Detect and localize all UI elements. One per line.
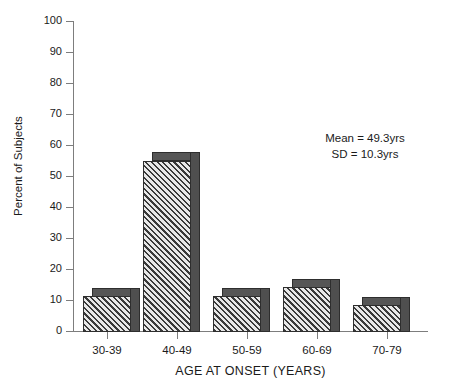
bar-70-79 xyxy=(353,297,401,332)
histogram-chart: 100 90 80 70 60 50 40 30 20 10 0 Percent xyxy=(0,0,455,389)
bar-side-face xyxy=(330,279,340,332)
bar-front-face xyxy=(213,296,261,332)
x-tick-mark xyxy=(247,332,248,339)
y-tick-label: 0 xyxy=(32,325,62,336)
x-tick-mark xyxy=(387,332,388,339)
x-tick-label-60-69: 60-69 xyxy=(302,344,331,357)
bar-front-face xyxy=(143,161,191,332)
y-tick-label: 60 xyxy=(32,139,62,150)
y-tick-mark xyxy=(66,269,73,270)
y-tick-mark xyxy=(66,52,73,53)
x-tick-label-70-79: 70-79 xyxy=(372,344,401,357)
y-tick-mark xyxy=(66,207,73,208)
bar-60-69 xyxy=(283,279,331,332)
y-tick-label: 50 xyxy=(32,170,62,181)
y-axis-line xyxy=(73,21,74,332)
bar-side-face xyxy=(130,288,140,332)
bar-side-face xyxy=(400,297,410,332)
bar-front-face xyxy=(83,296,131,332)
x-tick-mark xyxy=(177,332,178,339)
y-tick-label: 100 xyxy=(32,15,62,26)
y-tick-label: 40 xyxy=(32,201,62,212)
stats-annotation: Mean = 49.3yrs SD = 10.3yrs xyxy=(300,130,430,162)
y-tick-label: 90 xyxy=(32,46,62,57)
x-tick-label-50-59: 50-59 xyxy=(232,344,261,357)
mean-annotation-line: Mean = 49.3yrs xyxy=(300,130,430,146)
y-tick-label: 30 xyxy=(32,232,62,243)
y-tick-mark xyxy=(66,145,73,146)
y-tick-label: 70 xyxy=(32,108,62,119)
y-tick-mark xyxy=(66,21,73,22)
y-tick-mark xyxy=(66,331,73,332)
y-tick-mark xyxy=(66,300,73,301)
y-tick-label: 80 xyxy=(32,77,62,88)
y-tick-mark xyxy=(66,238,73,239)
bar-side-face xyxy=(190,152,200,332)
bar-50-59 xyxy=(213,288,261,332)
sd-annotation-line: SD = 10.3yrs xyxy=(300,146,430,162)
y-axis-title: Percent of Subjects xyxy=(12,86,24,246)
bar-side-face xyxy=(260,288,270,332)
y-tick-mark xyxy=(66,83,73,84)
y-tick-mark xyxy=(66,176,73,177)
x-tick-label-40-49: 40-49 xyxy=(162,344,191,357)
bar-40-49 xyxy=(143,152,191,332)
bar-front-face xyxy=(353,305,401,332)
x-tick-label-30-39: 30-39 xyxy=(92,344,121,357)
y-tick-label: 20 xyxy=(32,263,62,274)
y-tick-mark xyxy=(66,114,73,115)
bar-front-face xyxy=(283,287,331,332)
bar-30-39 xyxy=(83,288,131,332)
x-axis-title: AGE AT ONSET (YEARS) xyxy=(73,364,428,378)
x-tick-mark xyxy=(317,332,318,339)
y-tick-label: 10 xyxy=(32,294,62,305)
x-tick-mark xyxy=(107,332,108,339)
